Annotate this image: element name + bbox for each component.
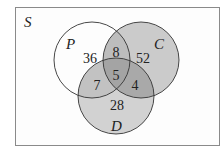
region-c-d: 4 [132, 78, 139, 93]
region-p-only: 36 [83, 51, 97, 66]
venn-diagram: S P C D 36 8 52 7 5 4 28 [0, 0, 224, 152]
universe-label: S [24, 14, 32, 30]
set-c-label: C [154, 36, 165, 52]
set-d-label: D [110, 118, 122, 134]
set-p-label: P [65, 36, 75, 52]
region-p-c: 8 [113, 45, 120, 60]
region-p-d: 7 [94, 78, 101, 93]
region-d-only: 28 [110, 98, 124, 113]
region-p-c-d: 5 [113, 68, 120, 83]
region-c-only: 52 [136, 51, 150, 66]
